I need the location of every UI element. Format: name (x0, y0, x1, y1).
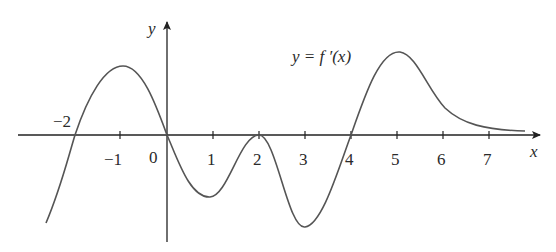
curve-label: y = f ′(x) (290, 47, 351, 66)
chart-figure: y x y = f ′(x) −2 −1 0 1 2 3 4 5 6 7 (0, 0, 556, 252)
tick-label-0: 0 (149, 148, 158, 167)
tick-label-5: 5 (391, 150, 400, 169)
tick-label-7: 7 (483, 150, 492, 169)
tick-label-neg1: −1 (104, 150, 122, 169)
tick-label-6: 6 (437, 150, 446, 169)
tick-label-2: 2 (253, 150, 262, 169)
tick-label-1: 1 (207, 150, 216, 169)
y-axis-label: y (146, 19, 156, 38)
tick-label-4: 4 (345, 150, 354, 169)
x-axis-label: x (529, 142, 538, 161)
tick-label-neg2: −2 (53, 112, 71, 131)
tick-label-3: 3 (299, 150, 308, 169)
derivative-curve (46, 52, 525, 227)
